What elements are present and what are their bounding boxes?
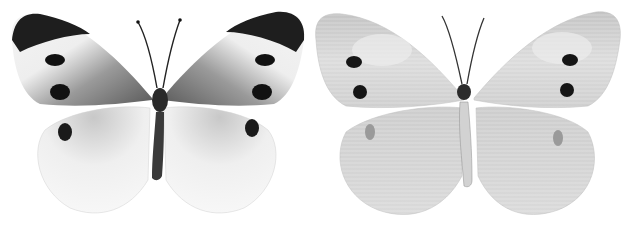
butterfly-upperside-graphic	[0, 0, 312, 232]
butterfly-underside	[312, 0, 624, 232]
butterfly-upperside	[0, 0, 312, 232]
butterfly-underside-graphic	[312, 0, 624, 232]
image-canvas	[0, 0, 624, 232]
